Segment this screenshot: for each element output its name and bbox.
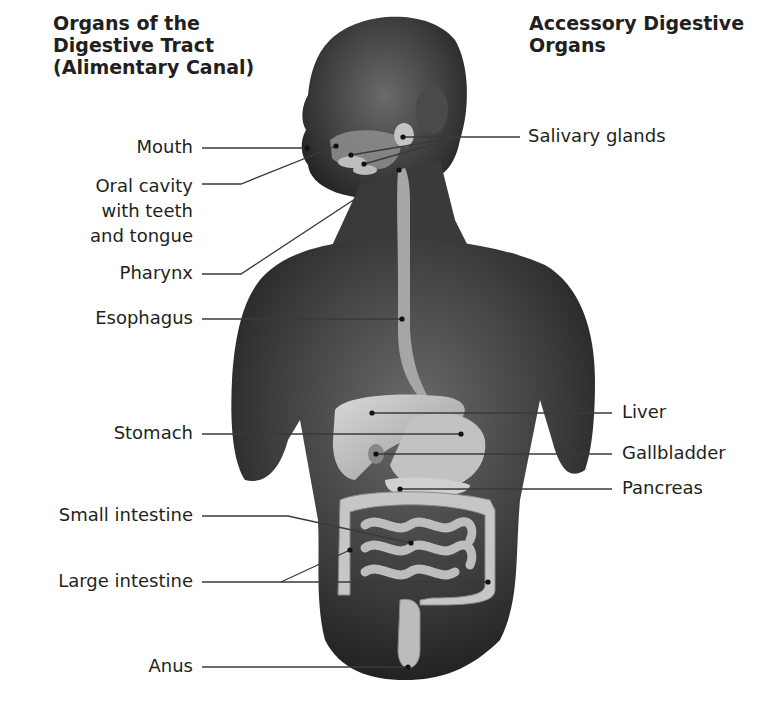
- label-small-intestine: Small intestine: [59, 504, 193, 526]
- label-gallbladder: Gallbladder: [622, 442, 726, 464]
- label-anus: Anus: [148, 655, 193, 677]
- label-pancreas: Pancreas: [622, 477, 703, 499]
- ear: [416, 86, 448, 134]
- heading-line: Organs: [529, 34, 744, 56]
- label-oral-cavity: Oral cavity with teeth and tongue: [90, 173, 193, 248]
- anatomy-illustration: [0, 0, 777, 710]
- heading-digestive-tract: Organs of the Digestive Tract (Alimentar…: [53, 12, 254, 78]
- heading-line: Digestive Tract: [53, 34, 254, 56]
- label-line: Oral cavity: [90, 173, 193, 198]
- label-stomach: Stomach: [114, 422, 193, 444]
- heading-accessory-organs: Accessory Digestive Organs: [529, 12, 744, 56]
- label-liver: Liver: [622, 401, 666, 423]
- heading-line: (Alimentary Canal): [53, 56, 254, 78]
- body-silhouette: [231, 17, 595, 680]
- label-esophagus: Esophagus: [95, 307, 193, 329]
- heading-line: Accessory Digestive: [529, 12, 744, 34]
- label-pharynx: Pharynx: [120, 262, 193, 284]
- label-salivary-glands: Salivary glands: [528, 125, 666, 147]
- heading-line: Organs of the: [53, 12, 254, 34]
- label-large-intestine: Large intestine: [58, 570, 193, 592]
- rectum-shape: [398, 599, 420, 668]
- label-mouth: Mouth: [137, 136, 193, 158]
- label-line: and tongue: [90, 223, 193, 248]
- label-line: with teeth: [90, 198, 193, 223]
